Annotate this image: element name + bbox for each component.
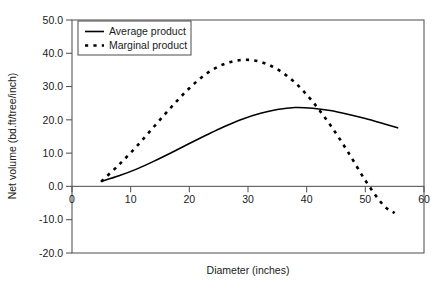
y-axis-ticks	[66, 20, 72, 253]
x-tick-label-0: 0	[69, 193, 75, 205]
x-tick-label-40: 40	[301, 193, 313, 205]
legend-label-marginal-product: Marginal product	[109, 39, 187, 51]
legend-label-average-product: Average product	[109, 25, 186, 37]
x-tick-label-30: 30	[242, 193, 254, 205]
x-tick-label-60: 60	[418, 193, 430, 205]
y-tick-label-0: 0.0	[48, 180, 63, 192]
y-tick-label-20: 20.0	[43, 114, 64, 126]
chart-figure: 50.0 40.0 30.0 20.0 10.0 0.0 -10.0 -20.0…	[0, 0, 446, 291]
y-tick-label-10: 10.0	[43, 147, 64, 159]
y-axis-tick-labels: 50.0 40.0 30.0 20.0 10.0 0.0 -10.0 -20.0	[39, 14, 63, 259]
series-line-average-product	[101, 107, 397, 181]
y-tick-label-40: 40.0	[43, 47, 64, 59]
x-tick-label-20: 20	[183, 193, 195, 205]
x-tick-label-50: 50	[359, 193, 371, 205]
y-tick-label-50: 50.0	[43, 14, 64, 26]
x-tick-label-10: 10	[125, 193, 137, 205]
y-tick-label-neg20: -20.0	[39, 247, 63, 259]
y-axis-title: Net volume (bd.ft/tree/inch)	[6, 73, 18, 200]
x-axis-title: Diameter (inches)	[207, 264, 290, 276]
y-tick-label-30: 30.0	[43, 80, 64, 92]
chart-canvas: 50.0 40.0 30.0 20.0 10.0 0.0 -10.0 -20.0…	[0, 0, 446, 291]
chart-legend: Average product Marginal product	[78, 21, 191, 55]
y-tick-label-neg10: -10.0	[39, 213, 63, 225]
